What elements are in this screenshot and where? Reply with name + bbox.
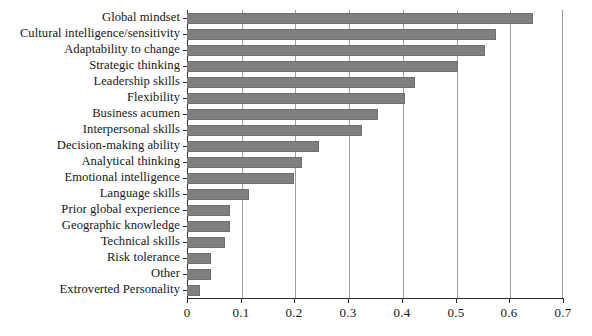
chart-row: Global mindset	[0, 10, 592, 27]
bar	[187, 141, 319, 152]
bar	[187, 285, 200, 296]
chart-row: Interpersonal skills	[0, 122, 592, 139]
chart-row: Flexibility	[0, 90, 592, 107]
x-axis-tick-label: 0.6	[489, 305, 529, 320]
category-label: Leadership skills	[0, 75, 180, 88]
category-label: Emotional intelligence	[0, 171, 180, 184]
bar	[187, 109, 378, 120]
x-axis-tick-label: 0.5	[436, 305, 476, 320]
category-label: Other	[0, 267, 180, 280]
chart-row: Decision-making ability	[0, 138, 592, 155]
chart-row: Technical skills	[0, 234, 592, 251]
bar	[187, 29, 496, 40]
chart-row: Business acumen	[0, 106, 592, 123]
bar	[187, 237, 225, 248]
bar	[187, 157, 302, 168]
x-axis-tick-label: 0.2	[274, 305, 314, 320]
chart-row: Extroverted Personality	[0, 282, 592, 299]
chart-row: Cultural intelligence/sensitivity	[0, 26, 592, 43]
bar	[187, 253, 211, 264]
chart-row: Prior global experience	[0, 202, 592, 219]
bar	[187, 269, 211, 280]
bar	[187, 205, 230, 216]
bar	[187, 45, 485, 56]
category-label: Business acumen	[0, 107, 180, 120]
chart-row: Leadership skills	[0, 74, 592, 91]
chart-row: Geographic knowledge	[0, 218, 592, 235]
category-label: Global mindset	[0, 11, 180, 24]
x-axis-tick-label: 0.1	[221, 305, 261, 320]
category-label: Decision-making ability	[0, 139, 180, 152]
category-label: Extroverted Personality	[0, 283, 180, 296]
chart-row: Analytical thinking	[0, 154, 592, 171]
category-label: Cultural intelligence/sensitivity	[0, 27, 180, 40]
category-label: Interpersonal skills	[0, 123, 180, 136]
category-label: Language skills	[0, 187, 180, 200]
bar	[187, 125, 362, 136]
bar	[187, 93, 405, 104]
category-label: Prior global experience	[0, 203, 180, 216]
chart-row: Adaptability to change	[0, 42, 592, 59]
bar	[187, 77, 415, 88]
bar	[187, 13, 533, 24]
category-label: Flexibility	[0, 91, 180, 104]
bar	[187, 61, 458, 72]
x-axis-tick-label: 0.3	[328, 305, 368, 320]
bar	[187, 221, 230, 232]
chart-row: Emotional intelligence	[0, 170, 592, 187]
x-axis-tick-label: 0.4	[382, 305, 422, 320]
chart-row: Language skills	[0, 186, 592, 203]
horizontal-bar-chart: 00.10.20.30.40.50.60.7Global mindsetCult…	[0, 0, 592, 336]
bar	[187, 189, 249, 200]
x-axis-tick-label: 0	[167, 305, 207, 320]
category-label: Risk tolerance	[0, 251, 180, 264]
chart-row: Risk tolerance	[0, 250, 592, 267]
category-label: Analytical thinking	[0, 155, 180, 168]
category-label: Strategic thinking	[0, 59, 180, 72]
category-label: Technical skills	[0, 235, 180, 248]
category-label: Geographic knowledge	[0, 219, 180, 232]
x-axis-tick-label: 0.7	[543, 305, 583, 320]
chart-row: Strategic thinking	[0, 58, 592, 75]
chart-row: Other	[0, 266, 592, 283]
category-label: Adaptability to change	[0, 43, 180, 56]
bar	[187, 173, 294, 184]
